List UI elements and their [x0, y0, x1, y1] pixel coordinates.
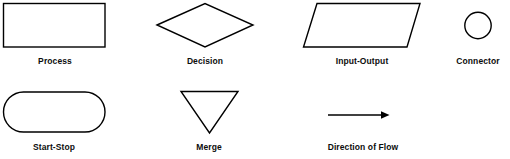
process-rectangle-shape [4, 4, 106, 48]
flow-arrow-head-icon [381, 111, 390, 119]
merge-triangle-shape [181, 92, 238, 134]
connector-label: Connector [456, 56, 500, 66]
symbol-start-stop: Start-Stop [4, 92, 106, 152]
symbol-canvas: Process Decision Input-Output Connector … [0, 0, 510, 159]
input-output-label: Input-Output [336, 56, 389, 66]
start-stop-label: Start-Stop [33, 142, 75, 152]
symbol-direction-of-flow: Direction of Flow [328, 111, 399, 152]
symbol-merge: Merge [181, 92, 238, 153]
direction-of-flow-label: Direction of Flow [328, 142, 399, 152]
decision-diamond-shape [157, 4, 253, 48]
input-output-parallelogram-shape [304, 4, 421, 48]
decision-label: Decision [187, 56, 223, 66]
process-label: Process [38, 56, 72, 66]
symbol-process: Process [4, 4, 106, 67]
connector-circle-shape [465, 12, 491, 38]
merge-label: Merge [196, 142, 222, 152]
symbol-input-output: Input-Output [304, 4, 421, 67]
flowchart-symbols-legend: Process Decision Input-Output Connector … [0, 0, 510, 159]
symbol-decision: Decision [157, 4, 253, 67]
start-stop-stadium-shape [4, 92, 106, 132]
symbol-connector: Connector [456, 12, 500, 66]
